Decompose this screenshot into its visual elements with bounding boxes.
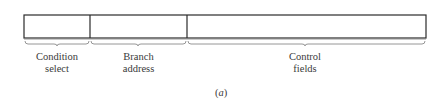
figure-caption: (a) xyxy=(215,87,227,98)
label-branch-address: Branch address xyxy=(90,51,187,75)
brace-control-fields xyxy=(188,41,425,46)
brace-branch-address xyxy=(91,41,186,46)
instruction-box xyxy=(24,15,426,38)
label-condition-select: Condition select xyxy=(24,51,90,75)
label-control-fields: Control fields xyxy=(255,51,355,75)
brace-condition-select xyxy=(25,41,89,46)
